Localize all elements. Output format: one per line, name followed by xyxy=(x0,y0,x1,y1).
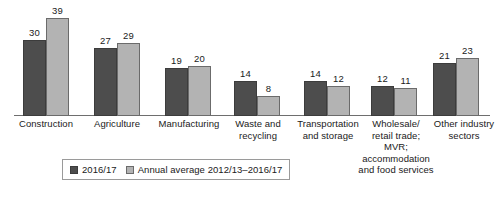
legend-swatch-icon-annual-average xyxy=(126,166,134,174)
bar-value-label: 23 xyxy=(462,45,473,56)
bar-value-label: 12 xyxy=(333,73,344,84)
bar-value-label: 14 xyxy=(310,68,321,79)
bar-item: 39 xyxy=(46,2,69,116)
bar xyxy=(371,86,394,116)
bar-item: 11 xyxy=(394,2,417,116)
bar-group: 2123 xyxy=(432,2,480,116)
bar-value-label: 39 xyxy=(52,5,63,16)
category-label: Wholesale/retail trade;MVR;accommodation… xyxy=(358,118,434,176)
bar-item: 14 xyxy=(234,2,257,116)
bar-item: 19 xyxy=(165,2,188,116)
bar-item: 14 xyxy=(304,2,327,116)
legend-swatch-icon-2016-17 xyxy=(70,166,78,174)
bar-group: 1412 xyxy=(303,2,351,116)
bar-group: 1211 xyxy=(370,2,418,116)
category-label: Waste andrecycling xyxy=(222,118,294,141)
bar-item: 12 xyxy=(371,2,394,116)
bar-group: 148 xyxy=(233,2,281,116)
bar xyxy=(94,48,117,116)
bar xyxy=(46,18,69,116)
bar-chart: 303927291920148141212112123 Construction… xyxy=(0,0,499,200)
legend-item-0: 2016/17 xyxy=(70,164,117,175)
bar-group: 3039 xyxy=(22,2,70,116)
legend-item-1: Annual average 2012/13–2016/17 xyxy=(126,164,283,175)
legend-label-1: Annual average 2012/13–2016/17 xyxy=(138,164,283,175)
bar xyxy=(23,40,46,116)
bar-item: 29 xyxy=(117,2,140,116)
bar-group: 1920 xyxy=(164,2,212,116)
bar-item: 21 xyxy=(433,2,456,116)
bar-item: 30 xyxy=(23,2,46,116)
bar xyxy=(394,88,417,116)
category-label: Manufacturing xyxy=(148,118,230,130)
bar-item: 23 xyxy=(456,2,479,116)
chart-legend: 2016/17 Annual average 2012/13–2016/17 xyxy=(62,159,290,180)
bar xyxy=(304,81,327,116)
bar xyxy=(165,68,188,116)
bar-item: 8 xyxy=(257,2,280,116)
bar xyxy=(456,58,479,116)
bar xyxy=(433,63,456,116)
bar-value-label: 19 xyxy=(171,55,182,66)
bar-item: 20 xyxy=(188,2,211,116)
bar-value-label: 20 xyxy=(194,53,205,64)
legend-label-0: 2016/17 xyxy=(82,164,117,175)
category-label: Agriculture xyxy=(78,118,156,130)
bar-value-label: 14 xyxy=(240,68,251,79)
bar-item: 12 xyxy=(327,2,350,116)
bar-item: 27 xyxy=(94,2,117,116)
plot-area: 303927291920148141212112123 xyxy=(0,0,499,117)
bar xyxy=(327,86,350,116)
bar-value-label: 11 xyxy=(400,75,410,86)
bar-value-label: 12 xyxy=(377,73,388,84)
bar-value-label: 8 xyxy=(266,83,271,94)
bar xyxy=(117,43,140,116)
bar-group: 2729 xyxy=(93,2,141,116)
bar-value-label: 21 xyxy=(439,50,450,61)
bar xyxy=(188,66,211,116)
bar-value-label: 27 xyxy=(100,35,111,46)
category-label: Construction xyxy=(5,118,87,130)
bar xyxy=(257,96,280,116)
bar-value-label: 30 xyxy=(29,27,40,38)
bar xyxy=(234,81,257,116)
category-label: Other industrysectors xyxy=(430,118,498,141)
bar-value-label: 29 xyxy=(123,30,134,41)
